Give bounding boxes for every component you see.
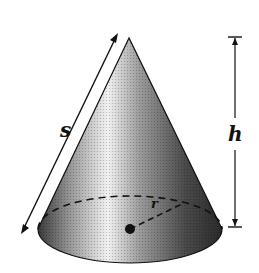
height-label: h <box>228 122 243 146</box>
slant-height-label: s <box>60 118 71 142</box>
radius-label: r <box>151 196 158 211</box>
cone-diagram <box>0 0 259 273</box>
